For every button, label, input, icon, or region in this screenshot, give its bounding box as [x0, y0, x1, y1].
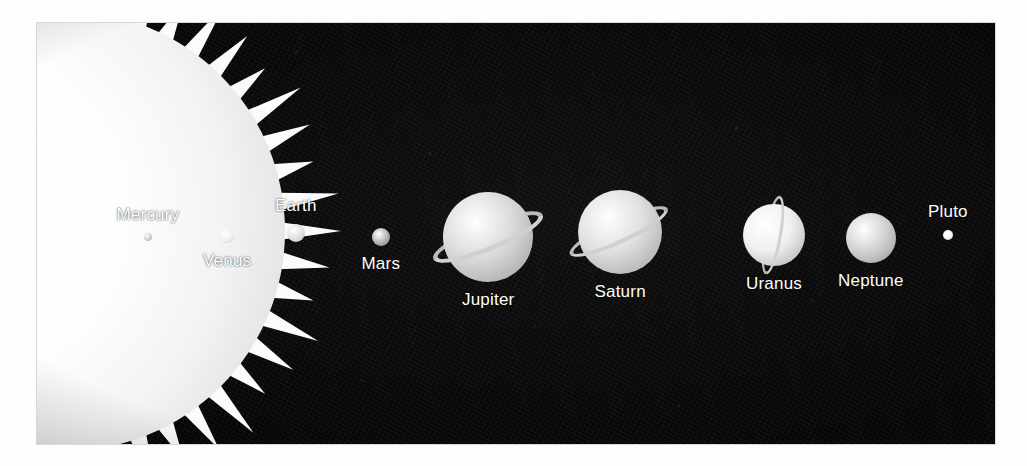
- label-jupiter: Jupiter: [462, 290, 514, 310]
- planet-uranus: [743, 204, 805, 266]
- label-earth: Earth: [275, 196, 317, 216]
- label-saturn: Saturn: [595, 282, 646, 302]
- label-neptune: Neptune: [838, 271, 904, 291]
- planet-neptune: [846, 213, 896, 263]
- planet-saturn: [578, 190, 662, 274]
- planet-earth: [287, 224, 305, 242]
- label-mercury: Mercury: [117, 205, 180, 225]
- solar-system-illustration: Sun MercuryVenusEarthMarsJupiterSaturnUr…: [37, 23, 995, 444]
- planet-jupiter: [443, 192, 533, 282]
- planet-mars: [372, 228, 390, 246]
- planet-body-earth: [287, 224, 305, 242]
- planet-body-neptune: [846, 213, 896, 263]
- planet-body-pluto: [943, 230, 953, 240]
- label-mars: Mars: [362, 254, 401, 274]
- planet-body-venus: [220, 229, 234, 243]
- label-uranus: Uranus: [746, 274, 802, 294]
- label-venus: Venus: [203, 251, 251, 271]
- page-canvas: Sun MercuryVenusEarthMarsJupiterSaturnUr…: [0, 0, 1027, 466]
- planet-body-mercury: [144, 233, 152, 241]
- label-pluto: Pluto: [928, 202, 968, 222]
- planet-body-mars: [372, 228, 390, 246]
- planet-pluto: [943, 230, 953, 240]
- planet-mercury: [144, 233, 152, 241]
- planet-venus: [220, 229, 234, 243]
